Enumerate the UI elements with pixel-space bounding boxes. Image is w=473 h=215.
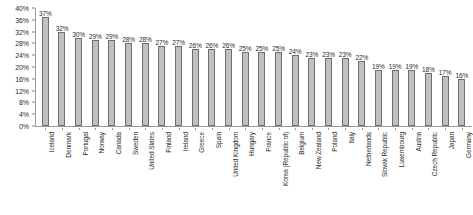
x-axis-tick-mark [279,128,280,130]
x-axis-tick-mark [145,128,146,130]
bar: 29% [108,40,115,126]
bar: 23% [308,58,315,126]
bar-slot: 18% [420,8,437,126]
x-axis-slot: Germany [453,128,470,214]
y-axis-tick-label: 28% [15,40,29,47]
x-axis-slot: Norway [87,128,104,214]
x-axis-tick-mark [229,128,230,130]
x-axis-slot: Spain [204,128,221,214]
x-axis-slot: Czech Republic [420,128,437,214]
bar-slot: 28% [137,8,154,126]
x-axis-tick-mark [462,128,463,130]
bar: 26% [225,49,232,126]
x-axis-slot: Belgium [287,128,304,214]
bar: 25% [258,52,265,126]
bar-slot: 37% [37,8,54,126]
bar-value-label: 18% [422,66,435,73]
bar: 23% [325,58,332,126]
bar-slot: 19% [387,8,404,126]
bar: 25% [275,52,282,126]
bar-slot: 27% [170,8,187,126]
bar-slot: 24% [287,8,304,126]
x-axis-tick-mark [62,128,63,130]
bar-slot: 25% [270,8,287,126]
x-axis-slot: France [254,128,271,214]
bar-value-label: 27% [156,39,169,46]
x-axis-slot: Finland [154,128,171,214]
x-axis-tick-mark [362,128,363,130]
x-axis-tick-mark [95,128,96,130]
x-axis-tick-mark [45,128,46,130]
bar-slot: 25% [254,8,271,126]
bar-slot: 28% [120,8,137,126]
x-axis-tick-mark [428,128,429,130]
bar-slot: 19% [370,8,387,126]
bar-slot: 30% [70,8,87,126]
y-axis-tick-label: 4% [19,111,29,118]
bar-chart: 40%36%32%28%24%20%16%12%8%4%0% 37%32%30%… [0,0,473,215]
bar-slot: 27% [154,8,171,126]
y-axis-tick-label: 20% [15,64,29,71]
x-axis-tick-mark [195,128,196,130]
bar-value-label: 23% [339,51,352,58]
x-axis-slot: Poland [320,128,337,214]
bar: 22% [358,61,365,126]
x-axis-slot: Korea (Republic of) [270,128,287,214]
x-axis-slot: Sweden [120,128,137,214]
x-axis-slot: Slovak Republic [370,128,387,214]
x-axis-slot: New Zealand [304,128,321,214]
bar-value-label: 17% [439,69,452,76]
y-axis-tick-label: 36% [15,16,29,23]
bar-value-label: 29% [106,33,119,40]
bar-slot: 17% [437,8,454,126]
x-axis-tick-mark [328,128,329,130]
bar-value-label: 22% [355,54,368,61]
y-axis-tick-label: 32% [15,28,29,35]
bar-value-label: 25% [256,45,269,52]
bar-value-label: 23% [322,51,335,58]
y-axis-tick-label: 12% [15,87,29,94]
y-axis: 40%36%32%28%24%20%16%12%8%4%0% [0,8,36,126]
x-axis-tick-mark [445,128,446,130]
bar-value-label: 30% [72,31,85,38]
x-axis-slot: Portugal [70,128,87,214]
bar-value-label: 23% [305,51,318,58]
bar: 28% [142,43,149,126]
x-axis-tick-mark [79,128,80,130]
x-axis-tick-mark [129,128,130,130]
bar-slot: 25% [237,8,254,126]
x-axis-tick-mark [378,128,379,130]
bar: 18% [425,73,432,126]
bar-slot: 29% [104,8,121,126]
bar-value-label: 28% [139,36,152,43]
x-axis-tick-mark [162,128,163,130]
bar: 30% [75,38,82,127]
y-axis-tick-label: 24% [15,52,29,59]
bar-value-label: 19% [405,63,418,70]
bar: 32% [58,32,65,126]
bar-slot: 26% [220,8,237,126]
bar-series: 37%32%30%29%29%28%28%27%27%26%26%26%25%2… [36,8,471,126]
bar: 27% [158,46,165,126]
y-axis-tick-label: 8% [19,99,29,106]
bar: 16% [458,79,465,126]
y-axis-tick-label: 40% [15,5,29,12]
bar-slot: 23% [304,8,321,126]
x-axis-slot: Austria [403,128,420,214]
bar-value-label: 32% [56,25,69,32]
bar-value-label: 25% [239,45,252,52]
bar-value-label: 26% [222,42,235,49]
x-axis-slot: Netherlands [353,128,370,214]
bar-value-label: 27% [172,39,185,46]
x-axis-tick-mark [112,128,113,130]
bar: 19% [375,70,382,126]
bar-slot: 26% [204,8,221,126]
x-axis-line [35,126,472,127]
bar-slot: 23% [337,8,354,126]
bar: 19% [408,70,415,126]
bar-slot: 19% [403,8,420,126]
x-axis-tick-mark [345,128,346,130]
bar-value-label: 25% [272,45,285,52]
bar: 25% [242,52,249,126]
x-axis-tick-mark [395,128,396,130]
